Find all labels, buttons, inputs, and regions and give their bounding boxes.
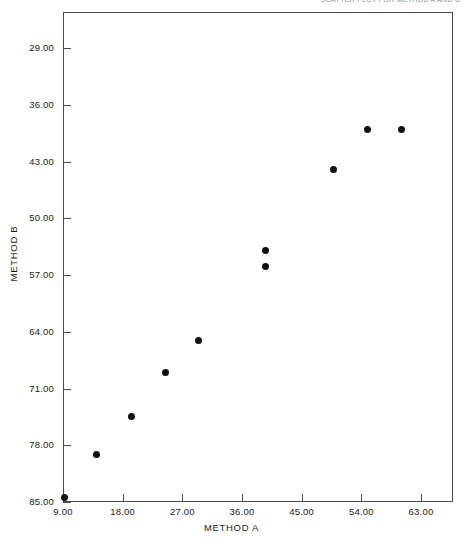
y-tick-label: 64.00 [8, 326, 54, 337]
y-tick-mark [63, 275, 71, 276]
x-tick-label: 9.00 [38, 506, 88, 517]
y-tick-mark [63, 332, 71, 333]
y-axis-title: METHOD B [8, 209, 19, 299]
y-tick-mark [63, 389, 71, 390]
x-axis-title: METHOD A [0, 522, 463, 533]
x-tick-mark [182, 494, 183, 502]
scatter-plot-figure: SCATTER PLOT FOR METHOD A AND B 85.0078.… [0, 0, 463, 539]
y-tick-label: 29.00 [8, 42, 54, 53]
y-tick-mark [63, 445, 71, 446]
cut-off-header-text: SCATTER PLOT FOR METHOD A AND B [300, 0, 460, 5]
y-tick-label: 36.00 [8, 99, 54, 110]
y-tick-mark [63, 162, 71, 163]
data-point [162, 369, 169, 376]
x-tick-mark [421, 494, 422, 502]
x-tick-mark [242, 494, 243, 502]
x-tick-label: 54.00 [336, 506, 386, 517]
x-tick-label: 36.00 [217, 506, 267, 517]
y-tick-mark [63, 502, 71, 503]
data-point [262, 263, 269, 270]
x-tick-mark [361, 494, 362, 502]
y-tick-mark [63, 105, 71, 106]
x-tick-mark [302, 494, 303, 502]
y-tick-label: 71.00 [8, 383, 54, 394]
y-tick-mark [63, 48, 71, 49]
y-tick-label: 78.00 [8, 439, 54, 450]
x-tick-label: 18.00 [98, 506, 148, 517]
data-point [364, 126, 371, 133]
x-tick-label: 27.00 [157, 506, 207, 517]
y-tick-label: 43.00 [8, 156, 54, 167]
x-tick-label: 45.00 [277, 506, 327, 517]
x-tick-mark [123, 494, 124, 502]
data-point [398, 126, 405, 133]
plot-frame [63, 12, 453, 502]
y-tick-mark [63, 218, 71, 219]
x-tick-label: 63.00 [396, 506, 446, 517]
